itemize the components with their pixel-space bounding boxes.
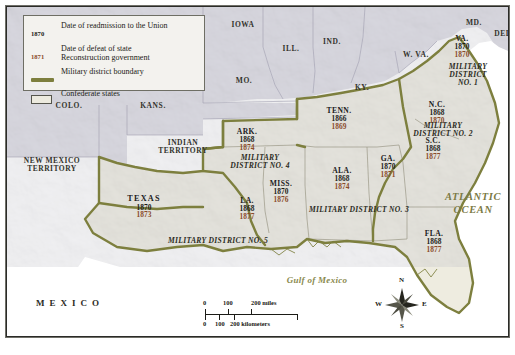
legend-key-defeat: 1871 — [31, 44, 61, 63]
scale-km-100: 100 — [215, 320, 225, 327]
legend-date-defeat: 1871 — [31, 53, 44, 60]
scale-tick-miles-200 — [251, 309, 252, 315]
legend-date-readmission: 1870 — [31, 30, 44, 37]
scale-miles-100: 100 — [223, 299, 233, 306]
legend-label-readmission: Date of readmission to the Union — [61, 21, 167, 31]
legend-row-district-boundary: Military district boundary — [31, 67, 198, 86]
compass-label-north: N — [399, 276, 404, 284]
map-legend: 1870 Date of readmission to the Union 18… — [23, 15, 205, 91]
legend-row-confederate: Confederate states — [31, 89, 198, 108]
compass-rose: N S E W — [375, 275, 429, 333]
legend-label-defeat: Date of defeat of state Reconstruction g… — [61, 44, 150, 64]
legend-label-confederate: Confederate states — [61, 89, 120, 99]
scale-miles-200-unit: 200 miles — [251, 299, 276, 306]
legend-key-readmission: 1870 — [31, 21, 61, 40]
legend-key-district-boundary — [31, 67, 61, 86]
legend-label-district-boundary: Military district boundary — [61, 67, 144, 77]
compass-label-south: S — [400, 322, 404, 330]
map-canvas: 1870 Date of readmission to the Union 18… — [7, 7, 508, 336]
scale-km-0: 0 — [203, 320, 206, 327]
district-boundary-icon — [31, 78, 54, 82]
confederate-swatch-icon — [31, 95, 52, 104]
legend-key-confederate — [31, 89, 61, 108]
scale-miles-0: 0 — [203, 299, 206, 306]
scale-bar: 0 100 200 miles 0 100 200 kilometers — [203, 299, 311, 333]
legend-row-defeat: 1871 Date of defeat of state Reconstruct… — [31, 44, 198, 64]
map-frame: 1870 Date of readmission to the Union 18… — [6, 6, 509, 337]
scale-km-200-unit: 200 kilometers — [230, 320, 270, 327]
legend-row-readmission: 1870 Date of readmission to the Union — [31, 21, 198, 40]
compass-label-west: W — [375, 300, 382, 308]
compass-label-east: E — [422, 300, 427, 308]
scale-miles-numbers: 0 100 200 miles — [203, 299, 311, 308]
scale-km-numbers: 0 100 200 kilometers — [203, 320, 311, 329]
scale-bar-graphic — [203, 309, 311, 319]
scale-tick-miles-100 — [228, 309, 229, 315]
